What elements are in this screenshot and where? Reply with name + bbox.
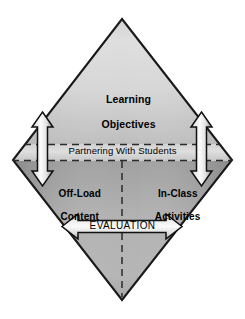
diagram-canvas bbox=[0, 0, 245, 319]
diamond-diagram: Learning Objectives Partnering With Stud… bbox=[0, 0, 245, 319]
